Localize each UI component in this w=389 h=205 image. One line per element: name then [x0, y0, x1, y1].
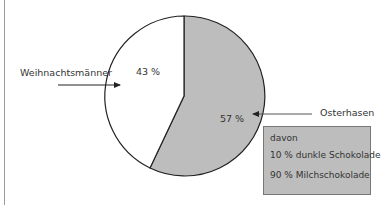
annotation-title: davon — [270, 131, 364, 145]
label-weihnachtsmaenner: Weihnachtsmänner — [20, 67, 112, 78]
annotation-box: davon 10 % dunkle Schokolade 90 % Milchs… — [263, 126, 371, 195]
pct-osterhasen: 57 % — [220, 113, 244, 124]
pct-weihnachtsmaenner: 43 % — [136, 66, 160, 77]
label-osterhasen: Osterhasen — [320, 107, 374, 118]
annotation-line-dark: 10 % dunkle Schokolade — [270, 145, 364, 165]
annotation-line-milk: 90 % Milchschokolade — [270, 165, 364, 185]
